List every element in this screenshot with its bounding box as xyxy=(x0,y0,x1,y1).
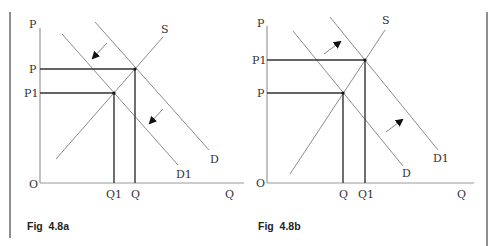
quantity-label-right: Q1 xyxy=(358,188,374,201)
quantity-label-left: Q1 xyxy=(106,188,122,201)
quantity-label-right: Q xyxy=(131,188,140,201)
y-axis-label: P xyxy=(257,17,265,30)
equilibrium-guide-p1-q1 xyxy=(40,93,114,183)
supply-curve xyxy=(290,30,385,174)
origin-label: O xyxy=(29,178,38,191)
shift-arrow-icon xyxy=(93,43,107,58)
price-label-lower: P1 xyxy=(24,87,38,100)
x-axis-label: Q xyxy=(457,188,466,201)
new-equilibrium-point xyxy=(363,58,366,61)
demand-label-d: D xyxy=(402,167,411,180)
figure-caption: Fig 4.8a xyxy=(27,220,69,232)
figure-caption: Fig 4.8b xyxy=(258,220,301,232)
demand-curve-d xyxy=(95,22,209,150)
supply-label: S xyxy=(382,14,390,27)
price-label-lower: P xyxy=(257,87,265,100)
shift-arrow-icon xyxy=(324,42,340,54)
equilibrium-guide-p-q xyxy=(267,93,343,183)
supply-demand-diagrams: P P P1 O Q1 Q Q S D D1 Fig 4.8a P P1 P O xyxy=(0,0,494,246)
x-axis-label: Q xyxy=(225,188,234,201)
demand-curve-d1 xyxy=(62,34,178,165)
quantity-label-left: Q xyxy=(339,188,348,201)
shift-arrow-icon xyxy=(386,120,402,132)
demand-label-d1: D1 xyxy=(176,168,192,181)
supply-curve xyxy=(56,37,163,159)
demand-curve-d xyxy=(293,31,403,166)
equilibrium-guide-p1-q1 xyxy=(267,60,365,183)
shift-arrow-icon xyxy=(150,109,163,123)
equilibrium-guide-p-q xyxy=(40,69,135,183)
demand-curve-d1 xyxy=(330,17,438,150)
figure-4-8a: P P P1 O Q1 Q Q S D D1 Fig 4.8a xyxy=(24,18,244,232)
origin-label: O xyxy=(256,177,265,190)
demand-label-d1: D1 xyxy=(433,152,449,165)
figure-4-8b: P P1 P O Q Q1 Q S D D1 Fig 4.8b xyxy=(252,14,474,232)
price-label-upper: P xyxy=(29,63,37,76)
supply-label: S xyxy=(161,23,169,36)
price-label-upper: P1 xyxy=(252,54,266,67)
demand-label-d: D xyxy=(210,153,219,166)
new-equilibrium-point xyxy=(112,91,115,94)
equilibrium-point xyxy=(341,91,344,94)
y-axis-label: P xyxy=(29,18,37,31)
equilibrium-point xyxy=(133,67,136,70)
